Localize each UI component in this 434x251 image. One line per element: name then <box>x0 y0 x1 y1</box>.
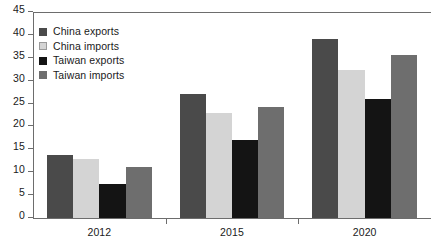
x-axis-label: 2012 <box>33 226 166 238</box>
legend-label: Taiwan imports <box>53 70 124 81</box>
legend-swatch-icon <box>39 57 47 65</box>
bar <box>47 155 73 218</box>
bar-chart: 051015202530354045 201220152020 China ex… <box>0 0 434 251</box>
y-tick-label: 20 <box>13 118 25 129</box>
bar <box>180 94 206 218</box>
legend-swatch-icon <box>39 28 47 36</box>
y-tick-label: 0 <box>19 210 25 221</box>
legend-label: Taiwan exports <box>53 55 124 66</box>
y-tick-label: 10 <box>13 164 25 175</box>
y-tick-label: 5 <box>19 187 25 198</box>
y-tick-label: 45 <box>13 4 25 15</box>
x-axis-line <box>33 218 431 219</box>
bar <box>338 70 364 218</box>
bar <box>126 167 152 218</box>
x-axis-tick <box>298 218 299 224</box>
y-tick-label: 15 <box>13 141 25 152</box>
legend-item: Taiwan imports <box>39 70 124 81</box>
legend-swatch-icon <box>39 71 47 79</box>
bar <box>365 99 391 218</box>
bar <box>258 107 284 218</box>
y-tick-label: 40 <box>13 27 25 38</box>
bar <box>312 39 338 218</box>
legend-item: China exports <box>39 26 124 37</box>
bar <box>206 113 232 218</box>
y-tick-label: 35 <box>13 50 25 61</box>
y-tick-label: 30 <box>13 73 25 84</box>
bar <box>391 55 417 218</box>
x-axis-label: 2020 <box>298 226 431 238</box>
x-axis-tick <box>166 218 167 224</box>
chart-legend: China exportsChina importsTaiwan exports… <box>39 26 124 81</box>
legend-swatch-icon <box>39 42 47 50</box>
legend-label: China exports <box>53 26 119 37</box>
legend-label: China imports <box>53 41 119 52</box>
bar <box>232 140 258 218</box>
bar <box>73 159 99 219</box>
bar <box>99 184 125 218</box>
y-tick-label: 25 <box>13 96 25 107</box>
legend-item: China imports <box>39 41 124 52</box>
x-axis-label: 2015 <box>166 226 299 238</box>
legend-item: Taiwan exports <box>39 55 124 66</box>
